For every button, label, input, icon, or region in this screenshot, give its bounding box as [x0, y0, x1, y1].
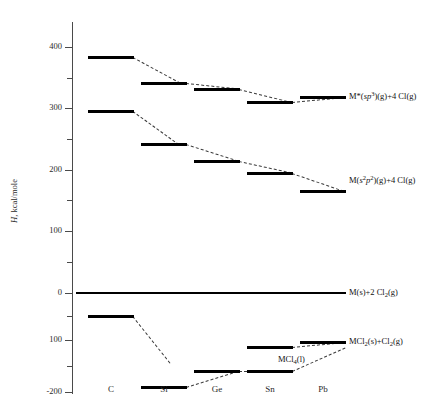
level-sp3-c — [88, 56, 134, 59]
y-tick-label-200: 200 — [20, 165, 62, 174]
level-sp3-sn — [247, 101, 293, 104]
level-mcl2-sn — [247, 346, 293, 349]
y-tick-200 — [65, 170, 72, 171]
level-mcl2-pb — [300, 341, 346, 344]
ann-s2p2-label: M(s2p2)(g)+4 Cl(g) — [349, 176, 415, 185]
y-tick-100 — [65, 231, 72, 232]
x-label-si: Si — [144, 384, 184, 394]
y-tick-minus-100 — [65, 340, 72, 341]
level-sp3-pb — [300, 96, 346, 99]
y-axis-line — [72, 22, 73, 394]
level-s2p2-si — [141, 143, 187, 146]
level-metal-baseline — [76, 292, 346, 294]
y-minor-tick-minus-150 — [67, 366, 72, 367]
connector-mcl4-c-si — [132, 316, 170, 363]
y-tick-label-0: 0 — [20, 288, 62, 297]
x-label-ge: Ge — [197, 384, 237, 394]
level-s2p2-c — [88, 110, 134, 113]
y-minor-tick-250 — [67, 139, 72, 140]
ann-sp3-label: M*(sp3)(g)+4 Cl(g) — [349, 92, 416, 101]
y-tick-label-400: 400 — [20, 42, 62, 51]
y-tick-400 — [65, 47, 72, 48]
y-tick-label-300: 300 — [20, 103, 62, 112]
x-label-pb: Pb — [303, 384, 343, 394]
level-mcl4-sn — [247, 370, 293, 373]
y-minor-tick-350 — [67, 78, 72, 79]
ann-metal-label: M(s)+2 Cl2(g) — [349, 288, 398, 297]
y-tick-label-minus-200: -200 — [20, 387, 62, 396]
y-tick-label-minus-100: 100 — [20, 335, 62, 344]
y-axis-title: H, kcal/mole — [9, 161, 19, 241]
connector-sp3-c-si — [133, 57, 181, 83]
level-sp3-si — [141, 82, 187, 85]
level-mcl4-ge — [194, 370, 240, 373]
energy-level-diagram: H, kcal/mole 400 300 200 100 0 100 -200 … — [0, 0, 430, 418]
level-s2p2-sn — [247, 172, 293, 175]
connector-s2p2-sn-pb — [292, 173, 344, 192]
level-s2p2-pb — [300, 190, 346, 193]
x-label-c: C — [91, 384, 131, 394]
y-minor-tick-50 — [67, 262, 72, 263]
y-minor-tick-minus-50 — [67, 316, 72, 317]
y-tick-minus-200 — [65, 392, 72, 393]
level-s2p2-ge — [194, 160, 240, 163]
y-minor-tick-150 — [67, 200, 72, 201]
x-label-sn: Sn — [250, 384, 290, 394]
level-sp3-ge — [194, 88, 240, 91]
y-axis-title-symbol: H — [9, 217, 19, 223]
y-axis-title-units: , kcal/mole — [9, 179, 19, 217]
y-tick-0 — [65, 293, 72, 294]
connector-s2p2-c-si — [132, 111, 178, 145]
y-tick-label-100: 100 — [20, 226, 62, 235]
ann-mcl4-label: MCl4(l) — [278, 355, 305, 364]
level-mcl4-c — [88, 315, 134, 318]
ann-mcl2-label: MCl2(s)+Cl2(g) — [349, 337, 403, 346]
y-tick-300 — [65, 108, 72, 109]
